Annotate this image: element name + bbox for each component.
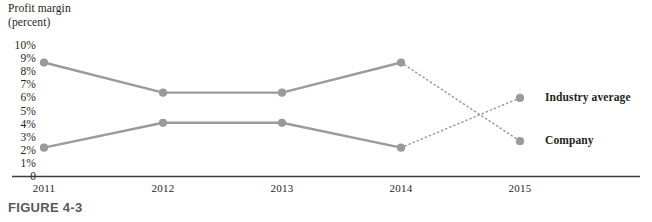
data-point-2013 — [278, 119, 286, 127]
data-point-2014 — [397, 144, 405, 152]
series-solid-line — [44, 123, 401, 148]
chart-plot-area — [0, 0, 652, 222]
series-company — [40, 94, 524, 152]
data-point-2011 — [40, 144, 48, 152]
data-point-2011 — [40, 58, 48, 66]
figure-container: Profit margin (percent) 01%2%3%4%5%6%7%8… — [0, 0, 652, 222]
data-point-2012 — [159, 89, 167, 97]
series-projection-line — [401, 98, 520, 148]
legend-label-industry-average: Industry average — [545, 91, 631, 104]
series-layer — [40, 58, 524, 151]
data-point-2015 — [516, 94, 524, 102]
figure-caption: FIGURE 4-3 — [8, 200, 83, 215]
data-point-2015 — [516, 137, 524, 145]
data-point-2014 — [397, 58, 405, 66]
data-point-2012 — [159, 119, 167, 127]
series-projection-line — [401, 63, 520, 142]
legend-label-company: Company — [545, 134, 594, 147]
series-solid-line — [44, 63, 401, 93]
data-point-2013 — [278, 89, 286, 97]
